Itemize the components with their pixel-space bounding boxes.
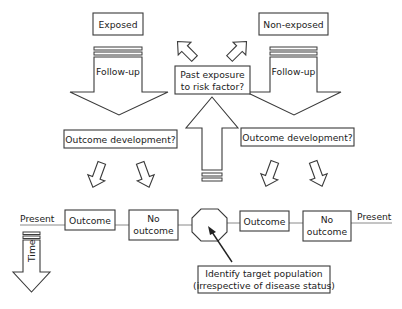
no-outcome-box-right: No outcome xyxy=(303,211,351,241)
outcome-development-box-right: Outcome development? xyxy=(241,128,354,146)
exposed-label: Exposed xyxy=(99,19,138,30)
outcome-development-box-left: Outcome development? xyxy=(64,130,177,148)
no-outcome-left-line2: outcome xyxy=(133,225,174,236)
follow-up-arrow-right: Follow-up xyxy=(246,47,341,115)
target-population-box: Identify target population (irrespective… xyxy=(193,266,335,293)
target-population-octagon xyxy=(192,209,227,241)
outcome-development-label-left: Outcome development? xyxy=(65,134,175,145)
exposed-box: Exposed xyxy=(93,13,143,35)
time-arrow: Time xyxy=(13,232,50,292)
down-arrow-left-2 xyxy=(132,160,158,191)
present-label-left: Present xyxy=(20,213,55,224)
present-label-right: Present xyxy=(357,211,392,222)
target-population-line2: (irrespective of disease status) xyxy=(193,280,335,291)
no-outcome-right-line2: outcome xyxy=(307,226,348,237)
past-exposure-box: Past exposure to risk factor? xyxy=(175,66,250,94)
down-arrow-left-1 xyxy=(84,160,110,191)
past-exposure-line1: Past exposure xyxy=(180,69,245,80)
follow-up-label-left: Follow-up xyxy=(96,66,140,77)
diagonal-arrow-up-right xyxy=(223,35,253,65)
outcome-box-right: Outcome xyxy=(240,211,289,231)
follow-up-label-right: Follow-up xyxy=(272,66,316,77)
no-outcome-left-line1: No xyxy=(147,213,160,224)
no-outcome-right-line1: No xyxy=(321,214,334,225)
upward-arrow-center xyxy=(186,97,238,181)
outcome-development-label-right: Outcome development? xyxy=(242,132,352,143)
time-label: Time xyxy=(26,239,37,263)
no-outcome-box-left: No outcome xyxy=(129,210,178,240)
diagonal-arrow-up-left xyxy=(171,35,201,65)
non-exposed-label: Non-exposed xyxy=(263,19,323,30)
study-design-diagram: Exposed Non-exposed Follow-up Follow-up … xyxy=(0,0,402,309)
past-exposure-line2: to risk factor? xyxy=(181,81,244,92)
outcome-box-left: Outcome xyxy=(65,210,115,230)
follow-up-arrow-left: Follow-up xyxy=(70,47,168,115)
down-arrow-right-2 xyxy=(305,159,331,190)
outcome-label-left: Outcome xyxy=(69,215,111,226)
non-exposed-box: Non-exposed xyxy=(259,13,328,35)
outcome-label-right: Outcome xyxy=(244,216,286,227)
down-arrow-right-1 xyxy=(257,159,283,190)
target-population-line1: Identify target population xyxy=(205,268,323,279)
